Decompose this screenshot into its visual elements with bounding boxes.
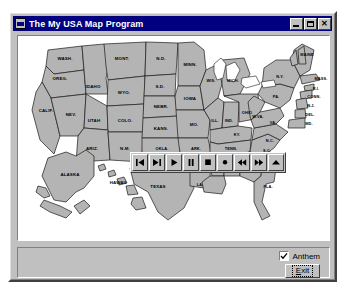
rewind-icon — [237, 158, 247, 167]
stop-button[interactable] — [200, 154, 216, 171]
state-label: TEXAS — [150, 184, 165, 189]
skip-to-start-icon — [135, 158, 145, 167]
state-label: N.J. — [307, 103, 315, 108]
state-label: TENN. — [225, 146, 237, 151]
anthem-checkbox-row[interactable]: Anthem — [279, 251, 320, 261]
state-label: NEBR. — [154, 104, 168, 109]
state-label: CONN. — [307, 94, 320, 99]
state-label: MAINE — [300, 52, 314, 57]
state-label: KANS. — [154, 126, 168, 131]
state-label: W.VA. — [252, 114, 263, 119]
state-label: N.C. — [266, 138, 274, 143]
minimize-button[interactable] — [290, 18, 303, 30]
exit-button[interactable]: Exit — [285, 264, 320, 278]
title-bar[interactable]: The My USA Map Program ✕ — [13, 16, 332, 31]
pause-icon — [186, 158, 196, 167]
state-label: COLO. — [118, 118, 133, 123]
application-window: The My USA Map Program ✕ — [8, 11, 337, 282]
record-button[interactable] — [217, 154, 233, 171]
state-label: ILL. — [211, 118, 219, 123]
state-label: WYO. — [118, 90, 130, 95]
state-label: OKLA. — [156, 146, 169, 151]
close-icon: ✕ — [321, 19, 328, 28]
state-label: MO. — [190, 122, 199, 127]
exit-button-label-rest: xit — [301, 266, 309, 275]
fast-forward-button[interactable] — [251, 154, 267, 171]
state-label: MONT. — [115, 56, 129, 61]
window-title: The My USA Map Program — [29, 19, 289, 29]
state-label: N.M. — [120, 146, 130, 151]
maximize-button[interactable] — [304, 18, 317, 30]
bottom-panel: Anthem Exit — [17, 247, 330, 278]
map-panel: WASH. OREG. CALIF. NEV. IDAHO MONT. WYO.… — [17, 35, 330, 241]
anthem-checkbox[interactable] — [279, 251, 289, 261]
state-label: ARIZ. — [86, 146, 98, 151]
pause-button[interactable] — [183, 154, 199, 171]
eject-icon — [271, 158, 281, 167]
state-label: VA. — [270, 120, 277, 125]
record-icon — [220, 158, 230, 167]
exit-button-label: Exit — [292, 265, 313, 277]
state-label: MINN. — [183, 62, 196, 67]
state-label: S.D. — [155, 84, 164, 89]
close-button[interactable]: ✕ — [318, 18, 331, 30]
skip-to-end-icon — [152, 158, 162, 167]
stop-icon — [203, 158, 213, 167]
state-label: N.Y. — [276, 74, 284, 79]
state-label: LA. — [197, 182, 204, 187]
checkmark-icon — [280, 252, 288, 260]
media-playback-toolbar[interactable] — [130, 152, 286, 173]
state-label: IDAHO — [86, 84, 101, 89]
state-label: MD. — [305, 121, 313, 126]
state-label: WIS. — [206, 78, 215, 83]
state-label: OHIO — [242, 110, 253, 115]
state-label: HAWAII — [110, 180, 127, 185]
application-window-icon — [15, 18, 26, 29]
skip-to-end-button[interactable] — [149, 154, 165, 171]
state-label: MICH. — [227, 78, 239, 83]
window-inner-frame: The My USA Map Program ✕ — [10, 13, 335, 280]
play-icon — [169, 158, 179, 167]
anthem-label: Anthem — [292, 252, 320, 261]
state-label: OREG. — [53, 76, 68, 81]
rewind-button[interactable] — [234, 154, 250, 171]
state-label: N.D. — [156, 56, 165, 61]
state-label: FLA. — [263, 184, 272, 189]
fast-forward-icon — [254, 158, 264, 167]
usa-map[interactable]: WASH. OREG. CALIF. NEV. IDAHO MONT. WYO.… — [18, 36, 329, 240]
state-label: ALASKA — [60, 172, 80, 177]
state-label: ARK. — [191, 146, 201, 151]
state-label: WASH. — [57, 56, 72, 61]
state-label: KY. — [234, 132, 241, 137]
state-label: IND. — [225, 118, 233, 123]
play-button[interactable] — [166, 154, 182, 171]
state-label: NEV. — [66, 112, 76, 117]
state-label: DEL. — [305, 112, 314, 117]
state-label: MASS. — [314, 76, 327, 81]
state-label: UTAH — [88, 118, 100, 123]
state-label: IOWA — [184, 96, 197, 101]
skip-to-start-button[interactable] — [132, 154, 148, 171]
state-label: R.I. — [313, 86, 320, 91]
state-label: PA. — [273, 94, 280, 99]
state-label: CALIF. — [39, 108, 54, 113]
eject-button[interactable] — [268, 154, 284, 171]
